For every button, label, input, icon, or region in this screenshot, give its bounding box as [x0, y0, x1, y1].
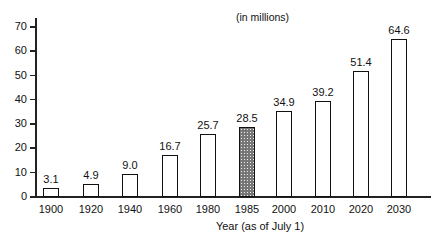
bar-value-label: 64.6 — [379, 24, 419, 36]
y-tick-label: 70 — [1, 20, 27, 32]
bar-1940 — [122, 174, 138, 197]
bar-value-label: 39.2 — [303, 86, 343, 98]
y-tick-label: 50 — [1, 69, 27, 81]
y-tick-label: 40 — [1, 93, 27, 105]
y-tick — [30, 123, 36, 125]
bar-value-label: 4.9 — [71, 169, 111, 181]
y-tick-label: 10 — [1, 166, 27, 178]
y-tick — [30, 75, 36, 77]
chart-title: (in millions) — [236, 11, 289, 23]
bar-value-label: 3.1 — [31, 173, 71, 185]
y-tick-label: 30 — [1, 117, 27, 129]
bar-value-label: 9.0 — [110, 159, 150, 171]
bar-2010 — [315, 101, 331, 197]
y-tick — [30, 50, 36, 52]
y-tick-label: 20 — [1, 141, 27, 153]
y-tick-label: 0 — [1, 190, 27, 202]
x-tick-label: 1960 — [150, 203, 190, 215]
bar-1985 — [239, 127, 255, 197]
bar-1900 — [43, 188, 59, 197]
x-axis-title: Year (as of July 1) — [160, 220, 360, 232]
bar-value-label: 25.7 — [188, 119, 228, 131]
x-tick-label: 1900 — [31, 203, 71, 215]
x-tick-label: 2020 — [341, 203, 381, 215]
bar-1980 — [200, 134, 216, 197]
y-tick — [30, 99, 36, 101]
bar-value-label: 34.9 — [264, 96, 304, 108]
x-tick-label: 2000 — [264, 203, 304, 215]
x-tick-label: 1940 — [110, 203, 150, 215]
bar-value-label: 28.5 — [227, 112, 267, 124]
x-tick-label: 2030 — [379, 203, 419, 215]
x-tick-label: 1980 — [188, 203, 228, 215]
y-tick — [30, 26, 36, 28]
y-axis — [35, 18, 37, 197]
bar-value-label: 16.7 — [150, 140, 190, 152]
y-tick — [30, 147, 36, 149]
bar-2030 — [391, 39, 407, 197]
bar-1960 — [162, 155, 178, 197]
y-tick-label: 60 — [1, 44, 27, 56]
bar-value-label: 51.4 — [341, 56, 381, 68]
x-tick-label: 1985 — [227, 203, 267, 215]
x-tick-label: 2010 — [303, 203, 343, 215]
bar-2020 — [353, 71, 369, 197]
bar-1920 — [83, 184, 99, 197]
bar-2000 — [276, 111, 292, 197]
y-tick — [30, 196, 36, 198]
x-tick-label: 1920 — [71, 203, 111, 215]
